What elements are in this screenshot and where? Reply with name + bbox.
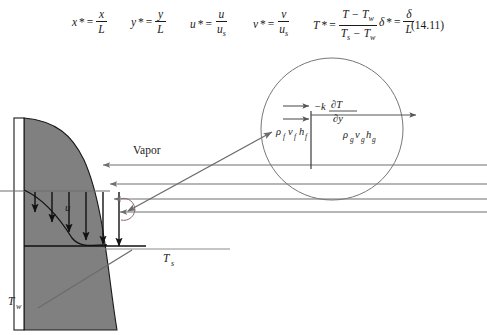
vapor-arrow-group — [103, 165, 487, 212]
conduction-denominator: ∂y — [333, 113, 343, 124]
conduction-numerator: ∂T — [331, 99, 343, 110]
vapor-density-subscript: g — [350, 135, 354, 144]
saturation-temp-label: T s — [163, 252, 174, 268]
saturation-temp-subscript: s — [171, 259, 174, 268]
vapor-velocity-symbol: v — [355, 129, 360, 140]
vapor-density-symbol: ρ — [342, 129, 348, 140]
liquid-density-symbol: ρ — [275, 126, 281, 137]
vapor-label: Vapor — [133, 144, 161, 157]
magnified-callout-circle — [261, 58, 403, 200]
vapor-enthalpy-subscript: g — [372, 135, 376, 144]
liquid-enthalpy-symbol: h — [299, 126, 304, 137]
cooled-wall — [14, 118, 24, 330]
vapor-enthalpy-symbol: h — [366, 129, 371, 140]
liquid-enthalpy-flux-term: ρ f v f h f — [275, 126, 308, 141]
saturation-temp-symbol: T — [163, 252, 171, 264]
vapor-enthalpy-flux-term: ρ g v g h g — [342, 129, 376, 144]
liquid-velocity-subscript: f — [294, 132, 297, 141]
liquid-velocity-symbol: v — [288, 126, 293, 137]
velocity-label: u — [65, 201, 71, 213]
condensation-film-diagram: u Vapor T s T w — [0, 0, 487, 335]
figure-page: x* = x L y* = y L u* = u us v* = — [0, 0, 487, 335]
liquid-enthalpy-subscript: f — [305, 132, 308, 141]
liquid-density-subscript: f — [283, 132, 286, 141]
conduction-coefficient: −k — [314, 101, 326, 112]
vapor-velocity-subscript: g — [361, 135, 365, 144]
wall-temp-subscript: w — [16, 302, 22, 311]
conduction-flux-term: −k ∂T ∂y — [314, 99, 357, 124]
